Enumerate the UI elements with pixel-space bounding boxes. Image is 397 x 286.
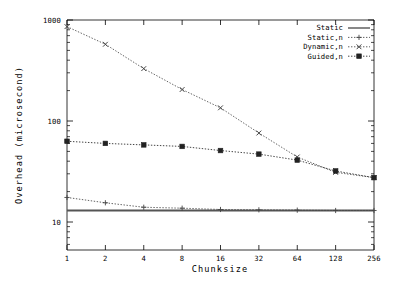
x-tick-label: 256 [367,254,381,263]
legend-label: Static [316,23,343,32]
data-point-marker [141,66,146,71]
series-line [67,141,374,177]
data-point-marker [180,87,185,92]
x-tick-label: 1 [65,254,70,263]
x-tick-label: 16 [216,254,225,263]
x-tick-label: 64 [293,254,302,263]
data-point-marker [64,195,69,200]
data-point-marker [372,175,377,180]
data-point-marker [180,144,185,149]
data-point-marker [256,207,261,212]
x-tick-label: 2 [103,254,108,263]
data-point-marker [295,158,300,163]
y-tick-label: 100 [47,117,61,126]
legend-label: Static,n [308,33,343,42]
data-point-marker [218,105,223,110]
data-point-marker [295,208,300,213]
data-point-marker [371,208,376,213]
data-point-marker [103,42,108,47]
x-axis-title: Chunksize [192,264,248,274]
x-tick-label: 128 [329,254,343,263]
data-point-marker [356,35,361,40]
x-tick-label: 8 [180,254,185,263]
line-chart-canvas: 100010010 1248163264128256 Chunksize Ove… [0,0,397,286]
data-point-marker [256,131,261,136]
y-tick-label: 1000 [43,16,61,25]
data-point-marker [218,148,223,153]
data-point-marker [333,169,338,174]
x-tick-label: 4 [141,254,146,263]
data-point-marker [141,205,146,210]
chart-legend: StaticStatic,nDynamic,nGuided,n [301,21,373,61]
y-axis-title: Overhead (microsecond) [14,66,24,204]
chart-figure: 100010010 1248163264128256 Chunksize Ove… [0,0,397,286]
x-tick-label: 32 [254,254,263,263]
data-point-marker [357,54,362,59]
data-point-marker [103,200,108,205]
series-guided-n [65,139,377,180]
legend-label: Guided,n [308,52,343,61]
legend-label: Dynamic,n [303,42,343,51]
data-point-marker [333,208,338,213]
data-point-marker [103,141,108,146]
data-point-marker [141,143,146,148]
data-point-marker [65,139,70,144]
data-point-marker [257,152,262,157]
y-tick-label: 10 [52,218,61,227]
